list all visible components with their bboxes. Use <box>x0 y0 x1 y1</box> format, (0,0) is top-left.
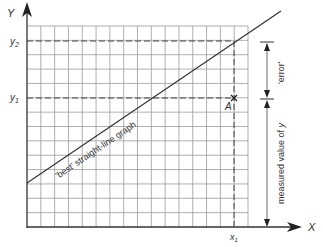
y2-label: y2 <box>9 36 19 48</box>
measured-arrow-up-icon <box>264 100 270 108</box>
x1-label: x1 <box>229 232 238 243</box>
error-label: 'error' <box>276 61 286 84</box>
y1-label: y1 <box>9 92 19 104</box>
error-dimension <box>260 42 274 99</box>
y-axis-label: Y <box>7 7 15 19</box>
x-axis-label: X <box>307 221 316 233</box>
measured-value-dimension <box>264 100 270 227</box>
measured-value-label: measured value of y <box>276 122 286 204</box>
best-fit-line-diagram: A Y X y2 y1 x1 'best' straight-line grap… <box>0 0 323 247</box>
error-arrow-down-icon <box>264 90 270 98</box>
error-arrow-up-icon <box>264 43 270 51</box>
best-straight-line <box>27 11 281 183</box>
point-a-label: A <box>224 101 232 112</box>
measured-arrow-down-icon <box>264 219 270 227</box>
